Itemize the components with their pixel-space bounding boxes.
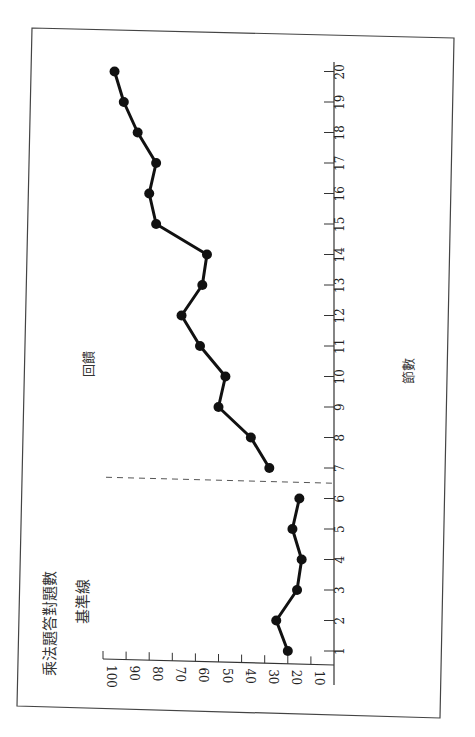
y-tick-label: 50	[220, 668, 234, 683]
x-tick-label: 10	[333, 369, 347, 384]
data-point	[195, 341, 205, 351]
data-point	[151, 219, 161, 229]
data-point	[202, 250, 212, 260]
x-tick-label: 4	[333, 556, 347, 564]
data-point	[246, 433, 256, 443]
y-tick-label: 30	[266, 669, 280, 684]
x-tick-label: 8	[333, 434, 347, 442]
data-point	[220, 372, 230, 382]
data-point	[119, 97, 129, 107]
x-tick-label: 15	[333, 217, 347, 232]
y-tick-label: 100	[104, 665, 118, 688]
y-tick-label: 20	[289, 670, 303, 685]
x-tick-label: 16	[333, 186, 347, 201]
x-tick-label: 5	[333, 525, 347, 533]
data-point	[214, 402, 224, 412]
data-point	[283, 646, 293, 656]
chart-page: 1020304050607080901001234567891011121314…	[0, 0, 475, 737]
data-point	[271, 616, 281, 626]
y-tick-label: 40	[243, 669, 257, 684]
x-tick-label: 9	[333, 403, 347, 411]
data-point	[264, 463, 274, 473]
x-tick-label: 14	[333, 247, 347, 263]
y-tick-label: 70	[173, 667, 187, 682]
y-tick-label: 90	[127, 666, 141, 681]
y-tick-label: 80	[150, 666, 164, 681]
y-tick-label: 10	[312, 670, 326, 685]
x-tick-label: 17	[333, 156, 347, 171]
x-tick-label: 1	[333, 647, 347, 655]
x-tick-label: 13	[333, 278, 347, 293]
y-axis-title: 乘法題答對題數	[41, 571, 59, 676]
data-point	[294, 494, 304, 504]
x-tick-label: 12	[333, 308, 347, 323]
data-point	[144, 189, 154, 199]
x-tick-label: 20	[333, 64, 347, 79]
data-point	[151, 158, 161, 168]
x-tick-label: 18	[333, 125, 347, 140]
data-point	[177, 311, 187, 321]
x-tick-label: 2	[333, 617, 347, 625]
x-tick-label: 6	[333, 495, 347, 503]
data-point	[133, 128, 143, 138]
feedback-phase-label: 回饋	[81, 351, 96, 377]
data-point	[197, 280, 207, 290]
line-chart: 1020304050607080901001234567891011121314…	[0, 0, 475, 737]
data-point	[292, 585, 302, 595]
data-point	[297, 555, 307, 565]
x-axis-title: 節數	[401, 358, 416, 384]
y-tick-label: 60	[196, 667, 210, 682]
x-tick-label: 7	[333, 464, 347, 472]
x-tick-label: 19	[333, 95, 347, 110]
x-tick-label: 11	[333, 339, 347, 354]
x-tick-label: 3	[333, 586, 347, 594]
data-point	[287, 524, 297, 534]
baseline-phase-label: 基準線	[74, 579, 92, 624]
data-point	[110, 67, 120, 77]
